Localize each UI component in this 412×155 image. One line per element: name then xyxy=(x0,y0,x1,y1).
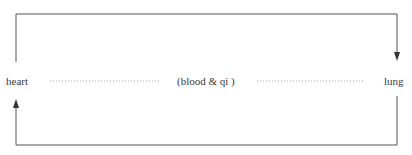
heart-label: heart xyxy=(6,75,28,87)
bottom-connector-line xyxy=(16,96,397,145)
top-connector-line xyxy=(16,14,397,62)
blood-qi-label: (blood & qi ) xyxy=(177,75,235,87)
down-arrowhead-icon xyxy=(394,52,400,61)
up-arrowhead-icon xyxy=(13,99,19,108)
lung-label: lung xyxy=(384,75,404,87)
